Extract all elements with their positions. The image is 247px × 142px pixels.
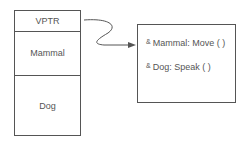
vtable-entry: &Dog: Speak ( )	[146, 62, 211, 72]
vtable-box: &Mammal: Move ( ) &Dog: Speak ( )	[137, 24, 236, 103]
vtable-entry: &Mammal: Move ( )	[146, 38, 225, 48]
